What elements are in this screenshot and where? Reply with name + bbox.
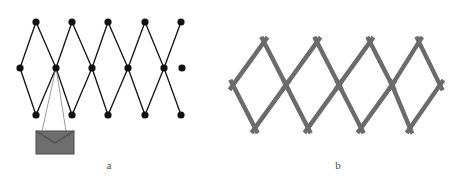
lattice-edge	[56, 22, 72, 68]
lattice-node	[32, 111, 39, 118]
lattice-edge	[36, 22, 56, 68]
lattice-edge	[72, 68, 92, 115]
lattice-edge	[108, 68, 128, 115]
suspension-line	[42, 68, 56, 131]
scissor-bar	[357, 80, 395, 133]
lattice-edge	[145, 22, 164, 68]
scissor-bar	[416, 37, 442, 91]
lattice-node	[104, 111, 111, 118]
lattice-edge	[92, 22, 108, 68]
lattice-node	[141, 18, 148, 25]
lattice-edge	[20, 68, 36, 115]
scissor-linkage-figure	[0, 0, 466, 183]
scissor-bar	[304, 80, 342, 133]
lattice-node	[177, 111, 184, 118]
lattice-edge	[128, 68, 145, 115]
panel-a-joint-nodes	[16, 18, 185, 118]
lattice-node	[104, 18, 111, 25]
lattice-node	[141, 111, 148, 118]
scissor-bar	[230, 80, 257, 134]
scissor-bar	[283, 80, 310, 134]
lattice-edge	[36, 68, 56, 115]
lattice-node	[68, 18, 75, 25]
lattice-node	[68, 111, 75, 118]
lattice-node	[52, 64, 59, 71]
panel-a-node-link-diagram	[16, 18, 185, 154]
figure-root: a b	[0, 0, 466, 183]
lattice-node	[32, 18, 39, 25]
lattice-edge	[92, 68, 108, 115]
scissor-bar	[229, 37, 267, 90]
lattice-node	[177, 18, 184, 25]
suspension-line	[56, 68, 66, 131]
lattice-edge	[72, 22, 92, 68]
scissor-bar	[407, 80, 444, 133]
lattice-edge	[20, 22, 36, 68]
suspension-lines	[42, 68, 66, 131]
lattice-node	[124, 64, 131, 71]
scissor-bar	[336, 80, 363, 134]
scissor-bar	[251, 80, 289, 133]
lattice-node	[160, 64, 167, 71]
panel-a-edges	[20, 22, 181, 115]
lattice-node	[88, 64, 95, 71]
envelope-payload	[36, 68, 74, 154]
lattice-edge	[108, 22, 128, 68]
panel-b-caption: b	[318, 160, 358, 171]
lattice-edge	[145, 68, 164, 115]
lattice-node	[178, 64, 185, 71]
panel-a-caption: a	[89, 160, 129, 171]
lattice-edge	[164, 68, 181, 115]
panel-b-bar-diagram	[229, 37, 443, 134]
lattice-edge	[56, 68, 72, 115]
panel-b-bars	[229, 37, 443, 134]
lattice-edge	[164, 22, 181, 68]
lattice-edge	[128, 22, 145, 68]
lattice-node	[16, 64, 23, 71]
scissor-bar	[390, 79, 413, 133]
